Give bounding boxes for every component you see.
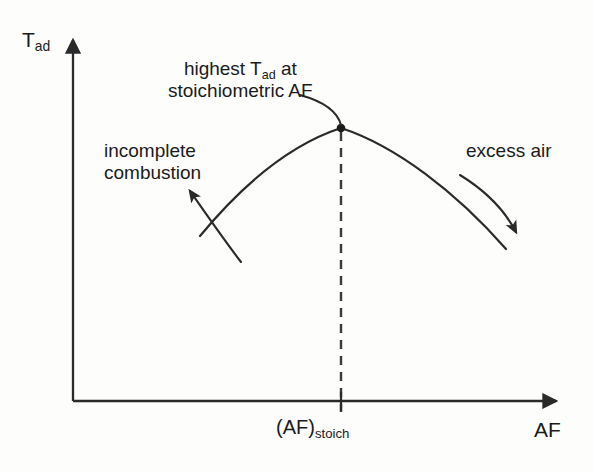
peak-annotation-line1-pre: highest T xyxy=(184,58,262,79)
y-axis-label-main: T xyxy=(22,28,35,51)
incomplete-combustion-arrow xyxy=(190,191,241,262)
x-axis-label: AF xyxy=(534,418,561,442)
diagram-canvas: Tad AF highest Tad at stoichiometric AF … xyxy=(0,0,594,472)
x-axis-label-main: AF xyxy=(534,418,561,441)
excess-air-annotation: excess air xyxy=(466,140,552,162)
stoichiometric-tick-label-main: (AF) xyxy=(276,416,315,438)
incomplete-combustion-line2: combustion xyxy=(104,162,201,184)
excess-air-line1: excess air xyxy=(466,140,552,161)
peak-annotation-line2: stoichiometric AF xyxy=(168,80,313,102)
flame-temperature-curve xyxy=(200,128,506,249)
peak-annotation-line1: highest Tad at xyxy=(184,58,297,79)
incomplete-combustion-line1: incomplete xyxy=(104,140,196,161)
y-axis-label: Tad xyxy=(22,28,50,52)
peak-annotation-subscript: ad xyxy=(262,68,276,82)
incomplete-combustion-annotation: incomplete combustion xyxy=(104,140,201,184)
excess-air-arrow xyxy=(460,175,516,232)
y-axis-label-subscript: ad xyxy=(35,38,50,54)
stoichiometric-tick-label-subscript: stoich xyxy=(315,426,349,441)
stoichiometric-tick-label: (AF)stoich xyxy=(276,416,349,439)
peak-annotation: highest Tad at stoichiometric AF xyxy=(168,58,313,102)
peak-annotation-line1-post: at xyxy=(276,58,297,79)
